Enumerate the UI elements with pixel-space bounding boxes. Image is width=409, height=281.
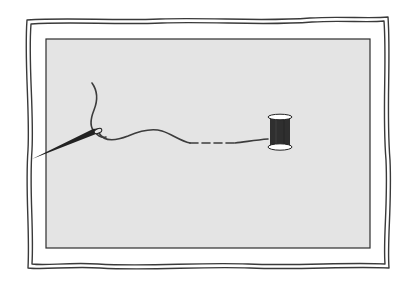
- spool-bottom-flange: [268, 144, 292, 150]
- spool-icon: [268, 114, 292, 150]
- spool-thread-body: [270, 118, 290, 146]
- spool-top-flange: [268, 114, 292, 120]
- illustration-canvas: [0, 0, 409, 281]
- illustration-stage: [0, 0, 409, 281]
